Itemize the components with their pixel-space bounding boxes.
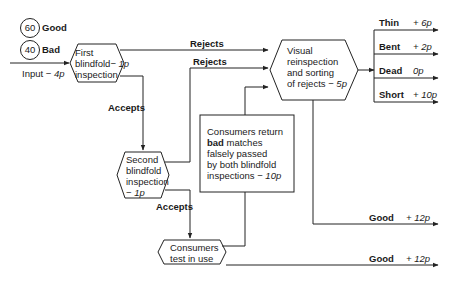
output-good-2-value: + 12p — [406, 253, 430, 264]
output-good-2-label: Good — [369, 253, 394, 264]
good-count-badge: 60 — [20, 18, 40, 38]
accepts-label-2: Accepts — [156, 201, 193, 212]
output-dead-label: Dead — [379, 65, 402, 76]
bad-legend-label: Bad — [42, 44, 60, 55]
second-inspection-label: Second blindfold inspection − 1p — [126, 154, 169, 198]
accepts-label-1: Accepts — [108, 102, 145, 113]
output-thin-label: Thin — [379, 17, 399, 28]
consumers-return-label: Consumers return bad matches falsely pas… — [207, 126, 283, 181]
output-good-1-value: + 12p — [406, 212, 430, 223]
flow-diagram: 60 Good 40 Bad Input − 4p First blindfol… — [0, 0, 460, 291]
bad-count-badge: 40 — [20, 40, 40, 60]
output-short-label: Short — [379, 89, 404, 100]
input-label: Input − 4p — [22, 68, 65, 79]
good-legend-label: Good — [42, 22, 67, 33]
rejects-label-2: Rejects — [193, 56, 227, 67]
consumers-test-label: Consumers test in use — [170, 242, 219, 264]
output-bent-value: + 2p — [413, 41, 432, 52]
output-good-1-label: Good — [369, 212, 394, 223]
output-dead-value: 0p — [413, 65, 424, 76]
output-short-value: + 10p — [413, 89, 437, 100]
rejects-label-1: Rejects — [190, 38, 224, 49]
first-inspection-label: First blindfold− 1p inspection — [75, 47, 129, 80]
output-bent-label: Bent — [379, 41, 400, 52]
visual-reinspection-label: Visual reinspection and sorting of rejec… — [287, 45, 347, 89]
output-thin-value: + 6p — [413, 17, 432, 28]
